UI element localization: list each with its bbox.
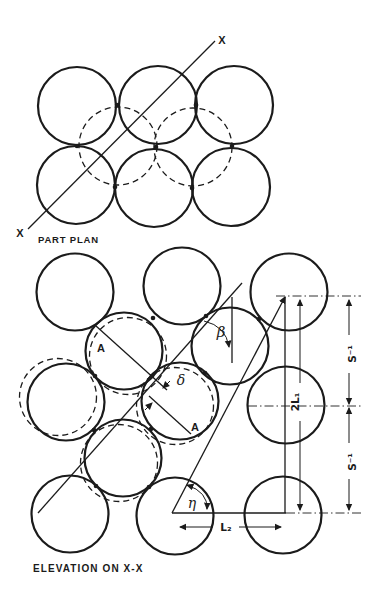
beta-label: β <box>216 323 226 341</box>
contact-dot <box>204 314 209 319</box>
figure-canvas: X X PART PLAN <box>0 0 375 594</box>
elevation-circle-dashed <box>20 359 97 436</box>
contact-dot <box>94 484 99 489</box>
elevation-caption: ELEVATION ON X-X <box>33 563 144 574</box>
delta-arrow-lower <box>145 403 152 410</box>
section-trace-line <box>38 283 242 513</box>
contact-dot <box>147 485 152 490</box>
part-plan: X X PART PLAN <box>16 34 273 245</box>
delta-arrow-upper <box>163 381 170 388</box>
contact-dot <box>149 427 154 432</box>
contact-dot <box>92 428 97 433</box>
figure-page: X X PART PLAN <box>0 0 375 594</box>
dim-s-lower-label: S⁻¹ <box>346 453 358 471</box>
point-label-a-upper: A <box>97 342 105 354</box>
elevation-circle <box>248 367 325 444</box>
contact-dot <box>75 144 80 149</box>
elevation-circle <box>251 254 328 331</box>
delta-label: δ <box>177 372 185 388</box>
plan-circle <box>119 66 197 144</box>
plan-circle <box>192 148 270 226</box>
contact-dot <box>203 371 208 376</box>
section-line-xx <box>28 41 215 229</box>
contact-dot <box>113 185 118 190</box>
contact-dot <box>257 317 262 322</box>
elevation: A A δ β η 2L₁ S⁻¹ S⁻¹ L₂ ELEVATION ON X-… <box>20 248 362 575</box>
plan-circle <box>37 146 115 224</box>
plan-circle <box>195 66 273 144</box>
contact-dot <box>194 103 199 108</box>
slip-plane-line-upper <box>96 326 167 390</box>
plan-circle <box>38 67 116 145</box>
contact-dot <box>154 145 159 150</box>
contact-dot <box>93 374 98 379</box>
part-plan-caption: PART PLAN <box>38 234 99 245</box>
contact-dot <box>151 316 156 321</box>
slip-plane-line-lower <box>149 396 191 434</box>
eta-label: η <box>188 495 197 511</box>
dim-l2-label: L₂ <box>220 521 232 533</box>
dim-2l1-label: 2L₁ <box>289 392 301 411</box>
contact-dot <box>230 144 235 149</box>
point-label-a-lower: A <box>191 421 199 433</box>
contact-dot <box>190 186 195 191</box>
section-label-bottom: X <box>16 227 24 239</box>
contact-dot <box>115 103 120 108</box>
section-label-top: X <box>218 34 226 46</box>
dim-s-upper-label: S⁻¹ <box>346 345 358 363</box>
elevation-circle <box>245 477 322 554</box>
